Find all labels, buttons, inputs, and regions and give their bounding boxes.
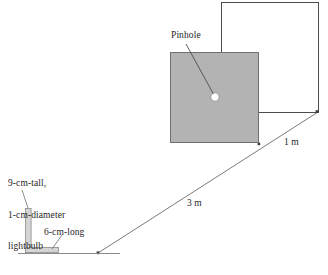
lightbulb-label: 9-cm-tall, 1-cm-diameter lightbulb: [8, 157, 65, 273]
lightbulb-label-line2: 1-cm-diameter: [8, 210, 65, 221]
pinhole-label: Pinhole: [171, 30, 201, 41]
base-length-label: 6-cm-long: [44, 227, 84, 238]
pinhole-to-screen-distance-label: 1 m: [284, 137, 299, 148]
barrier-square: [171, 53, 259, 143]
bulb-to-pinhole-distance-label: 3 m: [187, 198, 202, 209]
pinhole-camera-diagram: Pinhole 9-cm-tall, 1-cm-diameter lightbu…: [0, 0, 328, 275]
pinhole-aperture: [211, 93, 219, 101]
lightbulb-label-line3: lightbulb: [8, 241, 65, 252]
ray-screen-marker: [316, 110, 319, 113]
lightbulb-label-line1: 9-cm-tall,: [8, 178, 65, 189]
